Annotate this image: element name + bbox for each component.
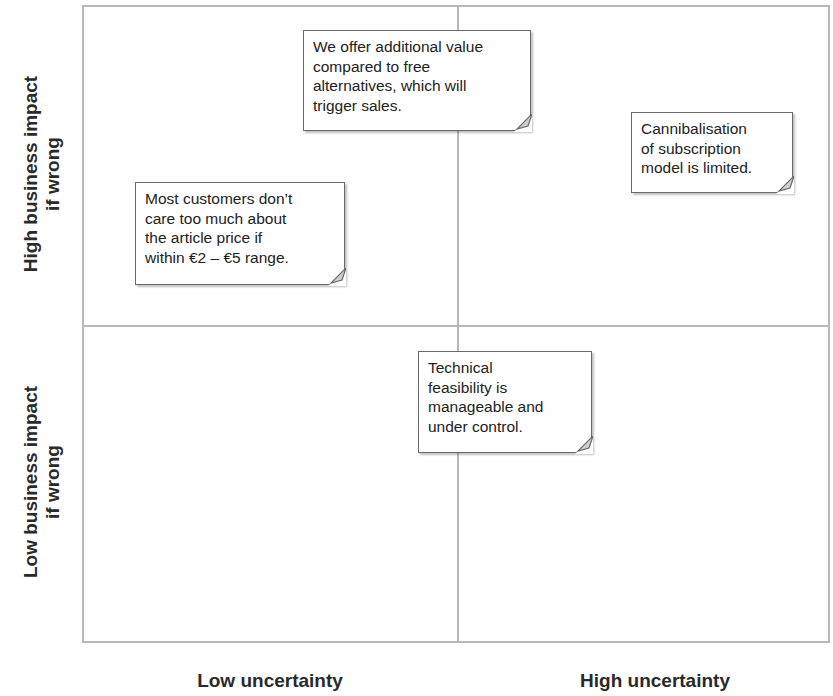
sticky-note-article-price[interactable]: Most customers don’t care too much about…	[135, 182, 345, 285]
x-axis-label-high-uncertainty: High uncertainty	[525, 670, 785, 692]
page-curl-icon	[776, 176, 794, 194]
note-text: We offer additional value compared to fr…	[313, 37, 522, 115]
y-axis-label-low-impact: Low business impact if wrong	[20, 352, 64, 612]
page-curl-icon	[514, 114, 532, 132]
sticky-note-technical-feasibility[interactable]: Technical feasibility is manageable and …	[418, 351, 592, 453]
sticky-note-additional-value[interactable]: We offer additional value compared to fr…	[303, 30, 531, 131]
x-axis-label-low-uncertainty: Low uncertainty	[140, 670, 400, 692]
sticky-note-cannibalisation[interactable]: Cannibalisation of subscription model is…	[631, 112, 793, 193]
note-text: Technical feasibility is manageable and …	[428, 358, 583, 436]
note-text: Cannibalisation of subscription model is…	[641, 119, 784, 178]
y-axis-label-low-impact-text: Low business impact if wrong	[20, 386, 63, 578]
horizontal-divider	[84, 325, 828, 327]
y-axis-label-high-impact-text: High business impact if wrong	[20, 76, 63, 272]
page-curl-icon	[575, 436, 593, 454]
page-curl-icon	[328, 268, 346, 286]
y-axis-label-high-impact: High business impact if wrong	[20, 44, 64, 304]
note-text: Most customers don’t care too much about…	[145, 189, 336, 267]
